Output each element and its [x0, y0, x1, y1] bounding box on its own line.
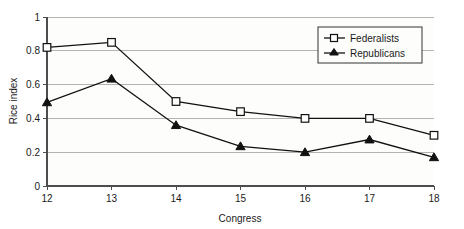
data-point-marker-federalists — [301, 115, 309, 123]
rice-index-line-chart: 00.20.40.60.81 12131415161718 Congress R… — [0, 0, 464, 229]
y-axis-ticks: 00.20.40.60.81 — [26, 12, 47, 192]
data-point-marker-federalists — [108, 39, 116, 47]
x-axis-ticks: 12131415161718 — [41, 186, 440, 204]
x-tick-label: 15 — [235, 193, 247, 204]
data-point-marker-federalists — [366, 115, 374, 123]
y-axis-title: Rice index — [8, 78, 19, 125]
data-point-marker-federalists — [43, 44, 51, 52]
legend-label-federalists: Federalists — [350, 33, 399, 44]
y-tick-label: 0 — [34, 181, 40, 192]
y-tick-label: 0.4 — [26, 113, 40, 124]
x-tick-label: 14 — [170, 193, 182, 204]
chart-legend: Federalists Republicans — [318, 27, 422, 63]
legend-label-republicans: Republicans — [350, 48, 405, 59]
x-tick-label: 18 — [428, 193, 440, 204]
x-tick-label: 17 — [364, 193, 376, 204]
x-tick-label: 13 — [106, 193, 118, 204]
x-tick-label: 16 — [299, 193, 311, 204]
data-point-marker-federalists — [237, 108, 245, 116]
y-tick-label: 0.8 — [26, 45, 40, 56]
x-axis-title: Congress — [219, 213, 262, 224]
y-tick-label: 1 — [34, 12, 40, 23]
y-tick-label: 0.6 — [26, 79, 40, 90]
legend-marker-open-square-icon — [331, 35, 338, 42]
y-tick-label: 0.2 — [26, 147, 40, 158]
chart-container: 00.20.40.60.81 12131415161718 Congress R… — [0, 0, 464, 229]
x-tick-label: 12 — [41, 193, 53, 204]
data-point-marker-federalists — [172, 98, 180, 106]
data-point-marker-federalists — [430, 132, 438, 140]
